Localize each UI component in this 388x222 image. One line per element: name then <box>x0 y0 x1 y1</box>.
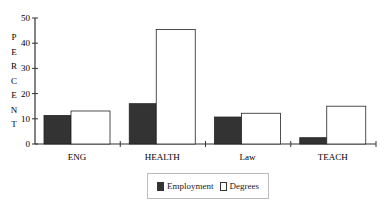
bars <box>44 30 366 144</box>
category-label: ENG <box>68 152 87 162</box>
legend-label-employment: Employment <box>167 181 214 191</box>
bar-degrees-law <box>242 113 281 144</box>
y-label-letter: T <box>11 119 17 129</box>
employment-swatch <box>157 182 164 191</box>
category-label: TEACH <box>318 152 348 162</box>
legend-label-degrees: Degrees <box>230 181 259 191</box>
y-axis-label: PERCENT <box>11 32 18 129</box>
y-tick-label: 30 <box>21 63 31 73</box>
legend-item-degrees: Degrees <box>220 181 259 191</box>
legend-item-employment: Employment <box>157 181 214 191</box>
y-label-letter: E <box>11 90 17 100</box>
y-tick-label: 0 <box>26 139 31 149</box>
legend: Employment Degrees <box>147 173 269 199</box>
y-label-letter: E <box>11 47 17 57</box>
bar-degrees-teach <box>327 106 366 144</box>
y-tick-label: 50 <box>21 13 31 23</box>
y-tick-label: 10 <box>21 114 31 124</box>
y-tick-label: 40 <box>21 38 31 48</box>
y-axis: 01020304050 <box>21 13 38 149</box>
y-label-letter: P <box>11 32 16 42</box>
category-label: HEALTH <box>145 152 181 162</box>
y-label-letter: R <box>11 61 17 71</box>
y-label-letter: C <box>11 76 17 86</box>
bar-employment-law <box>215 117 242 144</box>
bar-employment-health <box>129 104 156 144</box>
bar-employment-eng <box>44 116 71 144</box>
category-label: Law <box>240 152 256 162</box>
bar-degrees-health <box>156 30 195 144</box>
category-labels: ENGHEALTHLawTEACH <box>68 152 348 162</box>
y-label-letter: N <box>11 105 18 115</box>
y-tick-label: 20 <box>21 89 31 99</box>
bar-employment-teach <box>300 138 327 144</box>
degrees-swatch <box>220 182 227 191</box>
bar-degrees-eng <box>71 111 110 144</box>
